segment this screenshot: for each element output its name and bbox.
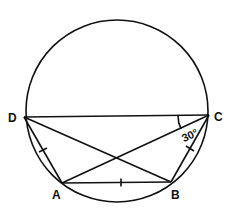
- diagonal-AC: [62, 115, 209, 183]
- point-label-B: B: [171, 188, 180, 202]
- diagram-canvas: D C A B 30°: [0, 0, 234, 208]
- geometry-diagram: D C A B 30°: [0, 0, 234, 208]
- circumcircle: [26, 20, 208, 202]
- point-label-A: A: [52, 188, 61, 202]
- point-label-C: C: [214, 110, 223, 124]
- point-label-D: D: [8, 111, 17, 125]
- tick-mark-BC: [186, 146, 194, 151]
- diagonal-DB: [24, 117, 171, 182]
- angle-label-C: 30°: [180, 126, 200, 144]
- segment-AB: [62, 182, 171, 183]
- segment-DC: [24, 115, 209, 117]
- angle-arc-C: [178, 115, 181, 129]
